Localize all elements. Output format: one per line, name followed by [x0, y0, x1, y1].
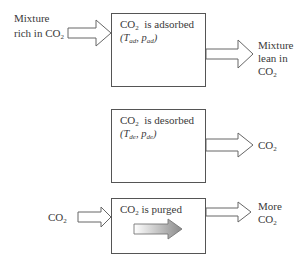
output-label-purge: More CO2	[258, 200, 282, 230]
input-label-purge: CO2	[48, 211, 67, 227]
output-label-adsorption: Mixture lean in CO2	[258, 39, 293, 82]
gradient-arrow-right-icon	[134, 219, 182, 239]
output-label-desorption: CO2	[258, 139, 277, 155]
input-label-adsorption: Mixture rich in CO2	[14, 12, 64, 43]
